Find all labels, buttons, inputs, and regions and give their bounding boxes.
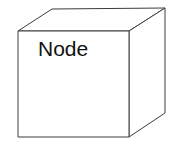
node-label: Node <box>38 37 88 60</box>
diagram-canvas: Node <box>0 0 180 145</box>
node-3d-box-icon[interactable]: Node <box>0 0 180 145</box>
node-side-face <box>129 8 165 137</box>
